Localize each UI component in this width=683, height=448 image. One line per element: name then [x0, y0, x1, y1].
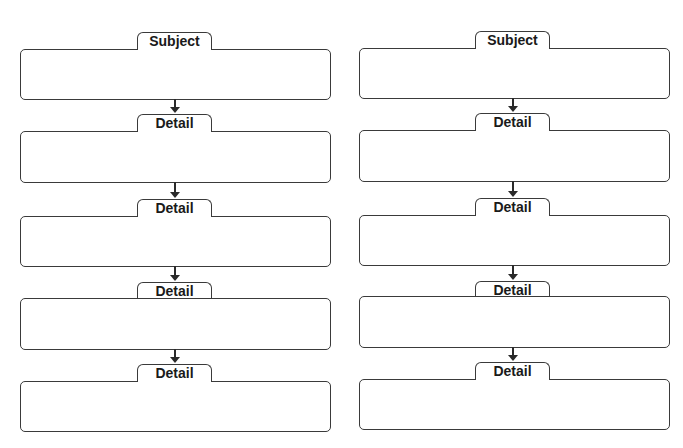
arrow-head-icon	[508, 191, 518, 197]
down-arrow-icon	[170, 99, 180, 114]
down-arrow-icon	[508, 98, 518, 113]
detail-box[interactable]	[359, 296, 670, 348]
detail-label: Detail	[475, 113, 550, 131]
down-arrow-icon	[508, 347, 518, 362]
detail-label: Detail	[137, 364, 212, 382]
detail-box[interactable]	[359, 215, 670, 266]
subject-label: Subject	[137, 32, 212, 50]
column-right: SubjectDetailDetailDetailDetail	[0, 0, 683, 448]
detail-label: Detail	[137, 114, 212, 132]
detail-label: Detail	[475, 198, 550, 216]
detail-box[interactable]	[359, 130, 670, 182]
down-arrow-icon	[508, 181, 518, 198]
down-arrow-icon	[170, 266, 180, 282]
down-arrow-icon	[170, 182, 180, 199]
detail-label: Detail	[475, 362, 550, 380]
arrow-head-icon	[508, 355, 518, 361]
detail-box[interactable]	[359, 379, 670, 430]
subject-box[interactable]	[359, 48, 670, 99]
detail-label: Detail	[137, 199, 212, 217]
arrow-head-icon	[170, 275, 180, 281]
arrow-head-icon	[508, 106, 518, 112]
down-arrow-icon	[508, 265, 518, 281]
arrow-head-icon	[170, 192, 180, 198]
arrow-head-icon	[170, 357, 180, 363]
detail-label: Detail	[475, 281, 550, 297]
subject-label: Subject	[475, 31, 550, 49]
arrow-head-icon	[170, 107, 180, 113]
arrow-head-icon	[508, 274, 518, 280]
down-arrow-icon	[170, 349, 180, 364]
